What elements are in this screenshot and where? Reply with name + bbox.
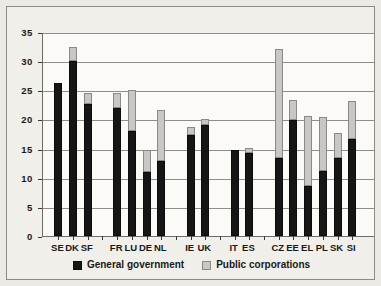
plot-area xyxy=(42,33,374,237)
y-axis-tick-mark xyxy=(38,208,42,209)
bar-si xyxy=(348,101,356,236)
x-axis-tick-mark xyxy=(88,236,89,240)
y-axis-tick-mark xyxy=(38,62,42,63)
legend-label: Public corporations xyxy=(216,260,310,270)
bar-segment-general-government xyxy=(54,83,62,236)
x-axis-label-si: SI xyxy=(337,243,365,253)
bar-segment-public-corporations xyxy=(289,100,297,120)
bar-segment-public-corporations xyxy=(143,150,151,172)
bar-segment-general-government xyxy=(201,125,209,236)
chart-legend: General government Public corporations xyxy=(7,260,376,270)
y-axis-tick-label: 25 xyxy=(7,86,33,96)
x-axis-tick-mark xyxy=(279,236,280,240)
legend-swatch-black-icon xyxy=(73,261,82,270)
bar-segment-general-government xyxy=(334,158,342,236)
bar-segment-general-government xyxy=(69,61,77,236)
bar-cz xyxy=(275,49,283,236)
bar-segment-public-corporations xyxy=(304,116,312,186)
x-axis-tick-mark xyxy=(147,236,148,240)
legend-entry-general-government: General government xyxy=(73,260,184,270)
chart-figure: 05101520253035 SEDKSFFRLUDENLIEUKITESCZE… xyxy=(0,0,381,286)
x-axis-tick-mark xyxy=(235,236,236,240)
x-axis-tick-mark xyxy=(117,236,118,240)
x-axis-tick-mark xyxy=(102,236,103,240)
bar-lu xyxy=(128,90,136,236)
gridline xyxy=(43,33,374,34)
bar-sk xyxy=(334,133,342,236)
y-axis-tick-mark xyxy=(38,33,42,34)
x-axis-tick-mark xyxy=(220,236,221,240)
bar-segment-general-government xyxy=(245,153,253,236)
bar-es xyxy=(245,148,253,236)
legend-label: General government xyxy=(87,260,184,270)
bar-segment-public-corporations xyxy=(69,47,77,62)
x-axis-tick-mark xyxy=(352,236,353,240)
x-axis-tick-mark xyxy=(176,236,177,240)
x-axis-tick-mark xyxy=(191,236,192,240)
y-axis-tick-label: 35 xyxy=(7,28,33,38)
bar-segment-general-government xyxy=(84,104,92,236)
y-axis-tick-mark xyxy=(38,91,42,92)
gridline xyxy=(43,91,374,92)
x-axis-tick-mark xyxy=(58,236,59,240)
x-axis-tick-mark xyxy=(338,236,339,240)
y-axis-tick-label: 15 xyxy=(7,145,33,155)
bar-segment-public-corporations xyxy=(319,117,327,171)
bar-sf xyxy=(84,93,92,236)
bar-segment-public-corporations xyxy=(128,90,136,131)
x-axis-tick-mark xyxy=(205,236,206,240)
bar-segment-public-corporations xyxy=(348,101,356,139)
y-axis-tick-mark xyxy=(38,120,42,121)
bar-dk xyxy=(69,47,77,236)
bar-segment-general-government xyxy=(143,172,151,236)
bar-segment-general-government xyxy=(231,150,239,236)
y-axis-tick-mark xyxy=(38,150,42,151)
bar-segment-public-corporations xyxy=(84,93,92,105)
x-axis-label-nl: NL xyxy=(146,243,174,253)
x-axis-tick-mark xyxy=(323,236,324,240)
bar-el xyxy=(304,116,312,236)
bar-segment-public-corporations xyxy=(334,133,342,158)
x-axis-tick-mark xyxy=(73,236,74,240)
bar-segment-general-government xyxy=(348,139,356,236)
bar-segment-general-government xyxy=(304,186,312,236)
bar-segment-public-corporations xyxy=(113,93,121,108)
y-axis-tick-mark xyxy=(38,237,42,238)
bar-ee xyxy=(289,100,297,236)
legend-swatch-gray-icon xyxy=(202,261,211,270)
y-axis-tick-label: 0 xyxy=(7,232,33,242)
x-axis-tick-mark xyxy=(264,236,265,240)
bar-de xyxy=(143,150,151,236)
bar-segment-general-government xyxy=(275,158,283,236)
bar-segment-general-government xyxy=(289,120,297,236)
y-axis-tick-label: 30 xyxy=(7,57,33,67)
bar-ie xyxy=(187,127,195,236)
y-axis-tick-label: 5 xyxy=(7,203,33,213)
bar-segment-general-government xyxy=(187,135,195,236)
bar-nl xyxy=(157,110,165,236)
bar-segment-public-corporations xyxy=(275,49,283,159)
y-axis-tick-label: 10 xyxy=(7,174,33,184)
x-axis-tick-mark xyxy=(293,236,294,240)
x-axis-label-sf: SF xyxy=(73,243,101,253)
x-axis-tick-mark xyxy=(132,236,133,240)
bar-uk xyxy=(201,119,209,236)
gridline xyxy=(43,62,374,63)
bar-segment-public-corporations xyxy=(187,127,195,135)
bar-segment-general-government xyxy=(113,108,121,236)
x-axis-tick-mark xyxy=(308,236,309,240)
chart-frame: 05101520253035 SEDKSFFRLUDENLIEUKITESCZE… xyxy=(6,6,375,280)
bar-fr xyxy=(113,93,121,236)
bar-pl xyxy=(319,117,327,236)
y-axis-tick-mark xyxy=(38,179,42,180)
x-axis-label-es: ES xyxy=(234,243,262,253)
y-axis-tick-label: 20 xyxy=(7,115,33,125)
bar-segment-general-government xyxy=(128,131,136,236)
x-axis-label-uk: UK xyxy=(190,243,218,253)
x-axis-tick-mark xyxy=(161,236,162,240)
legend-entry-public-corporations: Public corporations xyxy=(202,260,310,270)
bar-segment-general-government xyxy=(319,171,327,236)
bar-segment-general-government xyxy=(157,161,165,236)
x-axis-tick-mark xyxy=(249,236,250,240)
bar-segment-public-corporations xyxy=(157,110,165,161)
